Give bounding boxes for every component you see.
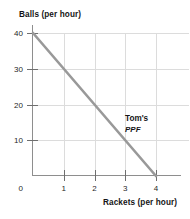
ppf-chart-figure: Balls (per hour) 40 30 20 10 0 1 2 3 4 T… — [0, 0, 190, 219]
ppf-annotation-line2: PPF — [125, 124, 148, 135]
ppf-line-segment — [33, 33, 156, 176]
ppf-annotation-line1: Tom's — [125, 113, 148, 124]
ppf-series-annotation: Tom's PPF — [125, 113, 148, 135]
x-axis-title: Rackets (per hour) — [103, 198, 177, 207]
ppf-line-chart — [0, 0, 190, 219]
